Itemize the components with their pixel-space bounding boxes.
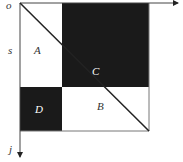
region-a-label: A	[34, 45, 41, 56]
region-c-label: C	[92, 66, 99, 77]
region-d-label: D	[35, 104, 43, 115]
col-axis-label: j	[9, 144, 12, 155]
row-axis-label: s	[8, 45, 12, 56]
origin-label: o	[6, 0, 12, 11]
region-c-box	[62, 3, 149, 87]
region-b-label: B	[97, 101, 104, 112]
matrix-diagram	[0, 0, 183, 162]
